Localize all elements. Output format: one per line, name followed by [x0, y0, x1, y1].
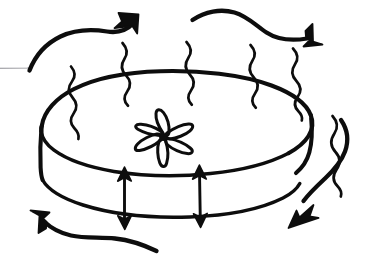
- evaporation-squiggle-1: [69, 67, 79, 140]
- disc-top-ellipse: [41, 71, 312, 176]
- height-dimension-arrow-left: [118, 167, 132, 230]
- disc-bottom-arc: [43, 180, 300, 217]
- evaporation-squiggle-5: [292, 49, 302, 121]
- evaporation-squiggle-6: [331, 116, 341, 197]
- airflow-arrow-top-right: [193, 11, 323, 47]
- figure-canvas: Hand-drawn sketch of evaporation from a …: [0, 0, 378, 275]
- sketch-drawing: Hand-drawn sketch of evaporation from a …: [0, 0, 378, 275]
- evaporation-squiggle-4: [250, 45, 258, 108]
- flower-marker: [135, 110, 192, 167]
